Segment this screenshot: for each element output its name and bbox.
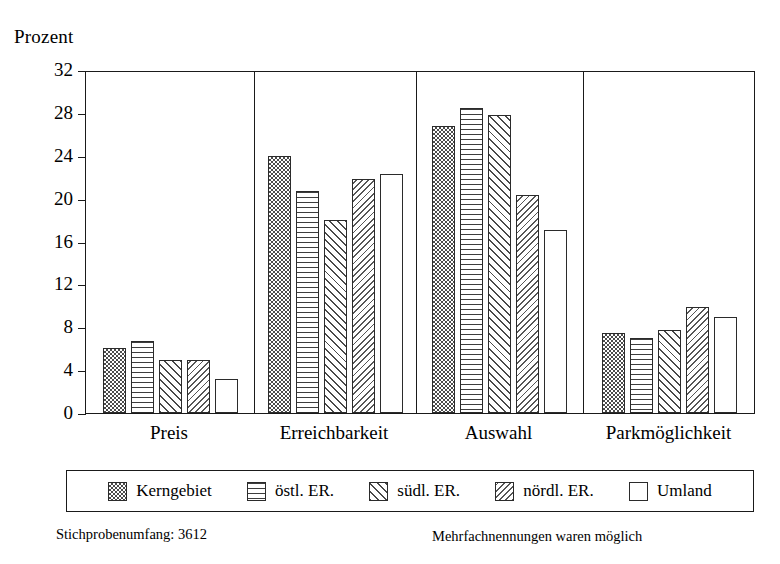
y-axis-title: Prozent xyxy=(14,26,73,48)
bar xyxy=(268,156,291,413)
legend-item-label: Kerngebiet xyxy=(136,481,212,501)
y-axis-tick-mark xyxy=(78,71,86,72)
legend-item: östl. ER. xyxy=(247,481,334,501)
legend-item: Kerngebiet xyxy=(108,481,212,501)
bar xyxy=(714,317,737,413)
legend-item-label: Umland xyxy=(657,481,712,501)
legend-item-label: östl. ER. xyxy=(275,481,334,501)
footnote-multiple-answers: Mehrfachnennungen waren möglich xyxy=(432,528,642,545)
legend-item: nördl. ER. xyxy=(495,481,593,501)
bar xyxy=(131,341,154,413)
bar xyxy=(380,174,403,413)
legend-swatch-icon xyxy=(495,482,514,501)
bar xyxy=(544,230,567,413)
y-axis-tick-mark xyxy=(78,200,86,201)
y-axis-tick-mark xyxy=(78,114,86,115)
group-separator xyxy=(254,72,255,413)
y-axis-tick-mark xyxy=(78,328,86,329)
x-axis-category-label: Erreichbarkeit xyxy=(253,422,415,444)
y-axis-tick-mark xyxy=(78,243,86,244)
x-axis-category-label: Preis xyxy=(85,422,253,444)
y-axis-tick-mark xyxy=(78,371,86,372)
legend-swatch-icon xyxy=(108,482,127,501)
legend-item-label: südl. ER. xyxy=(397,481,460,501)
bar xyxy=(488,115,511,413)
footnote-sample-size: Stichprobenumfang: 3612 xyxy=(56,526,207,543)
y-axis-tick-label: 12 xyxy=(54,274,73,293)
bar xyxy=(686,307,709,413)
bar xyxy=(352,179,375,413)
y-axis-tick-mark xyxy=(78,157,86,158)
y-axis-tick-label: 4 xyxy=(64,360,74,379)
bar xyxy=(215,379,238,413)
y-axis-tick-label: 16 xyxy=(54,232,73,251)
bar xyxy=(324,220,347,413)
bar xyxy=(103,348,126,413)
y-axis-tick-mark xyxy=(78,285,86,286)
legend-swatch-icon xyxy=(247,482,266,501)
y-axis-tick-label: 20 xyxy=(54,189,73,208)
bar xyxy=(602,333,625,413)
bar xyxy=(658,330,681,413)
legend-swatch-icon xyxy=(369,482,388,501)
chart-legend: Kerngebietöstl. ER.südl. ER.nördl. ER.Um… xyxy=(66,470,754,512)
y-axis-tick-label: 28 xyxy=(54,103,73,122)
x-axis-category-label: Auswahl xyxy=(415,422,582,444)
legend-item: Umland xyxy=(629,481,712,501)
bar xyxy=(187,360,210,413)
group-separator xyxy=(583,72,584,413)
bar xyxy=(296,191,319,413)
y-axis-tick-label: 24 xyxy=(54,146,73,165)
chart-plot-area: 048121620242832 xyxy=(85,71,755,414)
bar xyxy=(516,195,539,413)
y-axis-tick-mark xyxy=(78,414,86,415)
group-separator xyxy=(416,72,417,413)
x-axis-category-label: Parkmöglichkeit xyxy=(582,422,755,444)
bar xyxy=(159,360,182,413)
y-axis-tick-label: 32 xyxy=(54,60,73,79)
bar xyxy=(630,338,653,413)
y-axis-tick-label: 8 xyxy=(64,317,74,336)
legend-item: südl. ER. xyxy=(369,481,460,501)
legend-item-label: nördl. ER. xyxy=(523,481,593,501)
bar xyxy=(460,108,483,413)
y-axis-tick-label: 0 xyxy=(64,403,74,422)
legend-swatch-icon xyxy=(629,482,648,501)
bar xyxy=(432,126,455,413)
